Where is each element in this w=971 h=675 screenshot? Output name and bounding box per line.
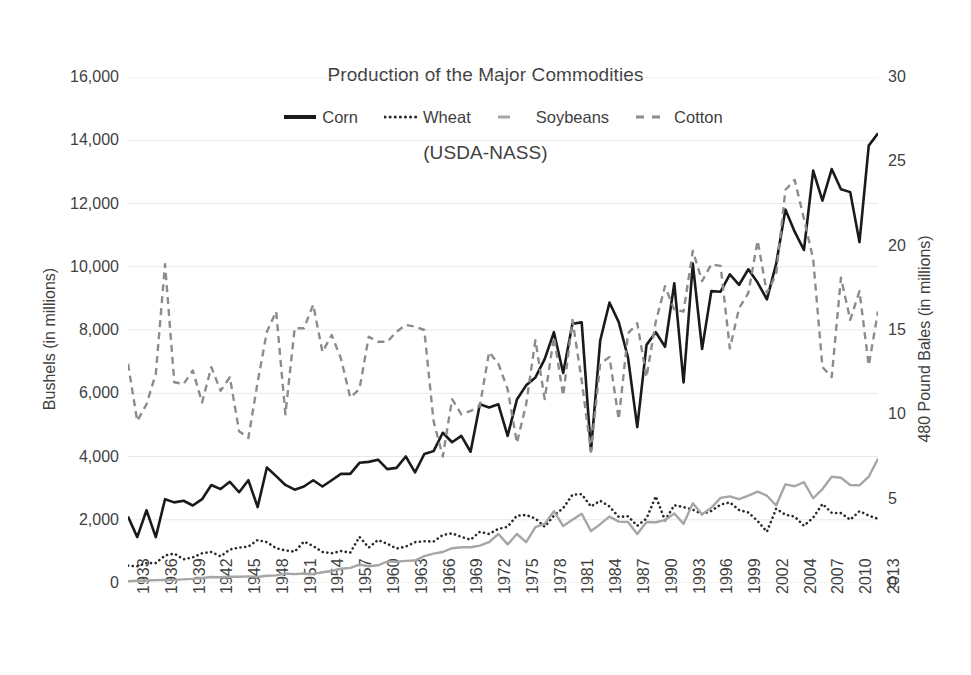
y-axis-tick-label-left: 6,000 [79,384,128,402]
y-axis-tick-label-left: 0 [110,574,128,592]
y-axis-tick-label-right: 15 [878,321,906,339]
series-line-corn [128,133,878,537]
y-axis-tick-label-right: 10 [878,405,906,423]
y-axis-tick-label-left: 2,000 [79,511,128,529]
y-axis-tick-label-left: 14,000 [70,131,128,149]
y-axis-title-right: 480 Pound Bales (in millions) [916,189,934,489]
y-axis-tick-label-left: 8,000 [79,321,128,339]
y-axis-tick-label-left: 12,000 [70,195,128,213]
x-axis-tick-label: 2013 [885,558,903,594]
chart-figure: Production of the Major Commodities (USD… [0,0,971,675]
gridlines [128,77,878,583]
y-axis-tick-label-left: 4,000 [79,448,128,466]
y-axis-tick-label-right: 30 [878,68,906,86]
y-axis-tick-label-right: 20 [878,237,906,255]
y-axis-tick-label-left: 10,000 [70,258,128,276]
y-axis-tick-label-right: 25 [878,152,906,170]
series-line-cotton [128,180,878,457]
series-line-wheat [128,494,878,566]
plot-area [128,77,878,583]
y-axis-tick-label-left: 16,000 [70,68,128,86]
y-axis-title-left: Bushels (in millions) [41,189,59,489]
y-axis-tick-label-right: 5 [878,490,897,508]
plot-svg [128,77,878,583]
series-lines [128,133,878,581]
